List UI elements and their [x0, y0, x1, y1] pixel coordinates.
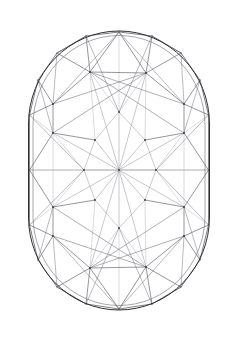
t-bottom-vertex [118, 227, 120, 229]
c-l-mid-vertex [52, 132, 54, 134]
c-r-bottom-vertex [183, 235, 185, 237]
t-lower-left-vertex [94, 199, 96, 201]
t-top-vertex [118, 111, 120, 113]
c-tr-upper-vertex [145, 72, 147, 74]
t-left-vertex [83, 169, 85, 171]
t-upper-right-vertex [144, 139, 146, 141]
c-l-upper-vertex [52, 103, 54, 105]
c-l-lower-vertex [52, 206, 54, 208]
t-upper-left-vertex [94, 139, 96, 141]
center-vertex [118, 169, 120, 171]
c-br-lower-vertex [145, 266, 147, 268]
c-r-mid-vertex [183, 132, 185, 134]
c-r-lower-vertex [183, 206, 185, 208]
t-lower-right-vertex [144, 199, 146, 201]
gem-diagram-root [0, 0, 235, 338]
t-right-vertex [155, 169, 157, 171]
c-l-bottom-vertex [52, 235, 54, 237]
c-r-upper-vertex [183, 103, 185, 105]
c-tl-upper-vertex [89, 71, 91, 73]
gemstone-facet-svg [0, 0, 235, 338]
c-bl-lower-vertex [89, 267, 91, 269]
